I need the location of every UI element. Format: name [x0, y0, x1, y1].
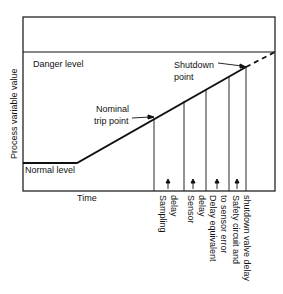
shutdown-label-1: Shutdown: [174, 60, 214, 70]
extrapolated-curve: [246, 52, 275, 67]
nominal-trip-label-2: trip point: [94, 116, 129, 126]
nominal-trip-label-1: Nominal: [96, 104, 129, 114]
sensor-error-label-2: to sensor error: [219, 195, 229, 254]
trip-delay-diagram: Danger level Normal level Time Process v…: [0, 0, 283, 294]
process-curve: [23, 67, 246, 163]
valve-delay-label-2: shutdown valve delay: [242, 195, 252, 282]
shutdown-label-2: point: [174, 72, 194, 82]
sensor-error-label-1: Delay equivalent: [208, 195, 218, 262]
valve-delay-label-1: Safety circuit and: [231, 195, 241, 264]
danger-level-label: Danger level: [33, 59, 84, 69]
delay-arrows: [166, 179, 239, 189]
shutdown-arrow-icon: [240, 64, 246, 68]
sensor-delay-label-1: Sensor: [186, 195, 196, 224]
normal-level-label: Normal level: [25, 165, 75, 175]
x-axis-label: Time: [77, 193, 97, 203]
nominal-trip-pointer: [132, 117, 150, 118]
sensor-delay-label-2: delay: [197, 195, 207, 217]
sampling-delay-label-2: delay: [169, 195, 179, 217]
y-axis-label: Process variable value: [9, 68, 19, 159]
shutdown-pointer: [218, 63, 242, 66]
nominal-trip-arrow-icon: [148, 115, 154, 119]
sampling-delay-label-1: Sampling: [158, 195, 168, 233]
